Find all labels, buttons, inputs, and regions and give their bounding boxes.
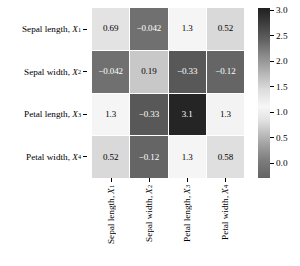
colorbar-tick-6: 0.0 [270, 157, 287, 169]
heatmap-cell-value-0-0: 0.69 [103, 24, 118, 33]
x-tick-mark-3 [225, 178, 226, 182]
y-axis-tick-label-1: Sepal width, X2 [0, 51, 88, 94]
colorbar-gradient[interactable] [258, 8, 270, 178]
y-label-sub-1: 2 [78, 68, 81, 75]
heatmap-cell-3-1[interactable]: −0.12 [130, 136, 167, 178]
colorbar-tick-2: 2.0 [270, 55, 287, 67]
colorbar-tick-1: 2.5 [270, 30, 287, 42]
covariance-heatmap-figure: Sepal length, X1 Sepal width, X2 Petal l… [0, 0, 300, 266]
heatmap-cell-value-0-2: 1.3 [182, 24, 193, 33]
heatmap-cell-2-3[interactable]: 1.3 [207, 94, 244, 136]
heatmap-cell-value-3-1: −0.12 [139, 153, 159, 162]
colorbar-tick-text-6: 0.0 [276, 158, 287, 168]
heatmap-cell-value-3-3: 0.58 [218, 153, 233, 162]
y-tick-mark-0 [83, 29, 87, 30]
heatmap-cell-3-2[interactable]: 1.3 [169, 136, 206, 178]
heatmap-cell-1-0[interactable]: −0.042 [92, 51, 129, 93]
heatmap-cell-0-3[interactable]: 0.52 [207, 8, 244, 50]
heatmap-cell-value-2-1: −0.33 [139, 110, 159, 119]
x-axis-labels: Sepal length, X1 Sepal width, X2 Petal l… [92, 178, 244, 266]
x-label-sym-0: X [106, 188, 116, 194]
y-label-text-1: Sepal width [24, 67, 68, 77]
colorbar-tick-0: 3.0 [270, 4, 287, 16]
y-label-text-2: Petal length [24, 109, 68, 119]
colorbar-tick-3: 1.5 [270, 81, 287, 93]
x-label-rot-3: Petal width, X4 [220, 185, 230, 240]
x-label-sep-0: , [106, 194, 116, 199]
x-label-sym-3: X [220, 188, 230, 194]
y-label-sub-3: 4 [78, 153, 81, 160]
colorbar-dash-1 [270, 35, 274, 36]
x-label-text-0: Sepal length [106, 198, 116, 244]
colorbar-tick-text-3: 1.5 [276, 82, 287, 92]
x-tick-mark-1 [149, 178, 150, 182]
heatmap-cell-value-2-2: 3.1 [182, 110, 193, 119]
x-label-sub-3: 4 [222, 185, 229, 188]
heatmap-cell-value-1-1: 0.19 [141, 67, 156, 76]
colorbar-dash-2 [270, 61, 274, 62]
y-axis-tick-label-2: Petal length, X3 [0, 93, 88, 136]
x-label-sym-1: X [144, 188, 154, 194]
x-axis-tick-label-2: Petal length, X3 [168, 178, 206, 266]
heatmap-cell-value-3-2: 1.3 [182, 153, 193, 162]
heatmap-cell-value-1-2: −0.33 [177, 67, 197, 76]
x-label-text-3: Petal width [220, 198, 230, 240]
y-label-sub-2: 3 [78, 111, 81, 118]
heatmap-cell-value-0-1: −0.042 [137, 24, 162, 33]
colorbar-tick-4: 1.0 [270, 106, 287, 118]
x-axis-tick-label-1: Sepal width, X2 [130, 178, 168, 266]
x-label-sub-2: 3 [184, 185, 191, 188]
x-axis-tick-label-0: Sepal length, X1 [92, 178, 130, 266]
heatmap-cell-2-2[interactable]: 3.1 [169, 94, 206, 136]
heatmap-cell-1-2[interactable]: −0.33 [169, 51, 206, 93]
colorbar-tick-text-5: 0.5 [276, 133, 287, 143]
heatmap-cell-3-0[interactable]: 0.52 [92, 136, 129, 178]
y-axis-labels: Sepal length, X1 Sepal width, X2 Petal l… [0, 8, 88, 178]
y-tick-mark-2 [83, 114, 87, 115]
colorbar-dash-5 [270, 137, 274, 138]
heatmap-cell-value-0-3: 0.52 [218, 24, 233, 33]
colorbar-tick-5: 0.5 [270, 132, 287, 144]
x-tick-mark-0 [111, 178, 112, 182]
colorbar-tick-text-0: 3.0 [276, 5, 287, 15]
x-label-rot-0: Sepal length, X1 [106, 185, 116, 244]
heatmap-cell-value-3-0: 0.52 [103, 153, 118, 162]
x-label-text-1: Sepal width [144, 198, 154, 242]
heatmap-cell-1-1[interactable]: 0.19 [130, 51, 167, 93]
x-label-rot-2: Petal length, X3 [182, 185, 192, 242]
x-label-sep-1: , [144, 194, 154, 199]
heatmap-cell-2-0[interactable]: 1.3 [92, 94, 129, 136]
colorbar-tick-text-1: 2.5 [276, 31, 287, 41]
y-label-text-0: Sepal length [22, 24, 68, 34]
colorbar-dash-6 [270, 163, 274, 164]
colorbar-dash-4 [270, 112, 274, 113]
x-tick-mark-2 [187, 178, 188, 182]
x-label-sub-1: 2 [146, 185, 153, 188]
heatmap-cell-value-1-3: −0.12 [215, 67, 235, 76]
heatmap-grid: 0.69 −0.042 1.3 0.52 −0.042 0.19 −0.33 −… [92, 8, 244, 178]
x-label-sep-3: , [220, 194, 230, 199]
colorbar-tick-labels: 3.0 2.5 2.0 1.5 1.0 0.5 0.0 [270, 8, 300, 178]
heatmap-cell-value-2-0: 1.3 [105, 110, 116, 119]
colorbar-dash-3 [270, 86, 274, 87]
x-label-sep-2: , [182, 194, 192, 199]
heatmap-cell-3-3[interactable]: 0.58 [207, 136, 244, 178]
colorbar-dash-0 [270, 10, 274, 11]
y-tick-mark-1 [83, 71, 87, 72]
y-label-text-3: Petal width [26, 152, 68, 162]
heatmap-cell-2-1[interactable]: −0.33 [130, 94, 167, 136]
heatmap-cell-1-3[interactable]: −0.12 [207, 51, 244, 93]
y-tick-mark-3 [83, 156, 87, 157]
heatmap-cell-0-0[interactable]: 0.69 [92, 8, 129, 50]
colorbar-tick-text-2: 2.0 [276, 56, 287, 66]
colorbar-tick-text-4: 1.0 [276, 107, 287, 117]
x-label-sym-2: X [182, 188, 192, 194]
x-label-rot-1: Sepal width, X2 [144, 185, 154, 242]
heatmap-cell-value-2-3: 1.3 [220, 110, 231, 119]
y-axis-tick-label-3: Petal width, X4 [0, 136, 88, 179]
heatmap-cell-0-2[interactable]: 1.3 [169, 8, 206, 50]
y-label-sub-0: 1 [78, 26, 81, 33]
heatmap-cell-0-1[interactable]: −0.042 [130, 8, 167, 50]
x-label-sub-0: 1 [108, 185, 115, 188]
heatmap-cell-value-1-0: −0.042 [98, 67, 123, 76]
